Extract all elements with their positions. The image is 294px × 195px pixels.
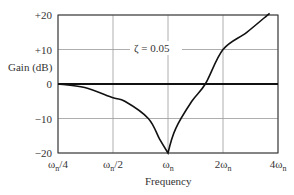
x-tick-label: ωn — [162, 158, 173, 173]
x-tick-label: 2ωn — [215, 158, 232, 173]
y-tick-label: −10 — [35, 113, 53, 125]
x-tick-label: 4ωn — [270, 158, 287, 173]
y-tick-label: +20 — [35, 9, 53, 21]
x-tick-label: ωn/2 — [103, 158, 123, 173]
chart: +20+100−10−20 ωn/4ωn/2ωn2ωn4ωn ζ = 0.05 … — [0, 0, 294, 195]
x-tick-label: ωn/4 — [48, 158, 68, 173]
y-axis-ticks: +20+100−10−20 — [35, 9, 53, 159]
damping-annotation: ζ = 0.05 — [134, 42, 170, 55]
y-tick-label: 0 — [47, 78, 53, 90]
y-tick-label: +10 — [35, 44, 53, 56]
x-axis-ticks: ωn/4ωn/2ωn2ωn4ωn — [48, 158, 286, 173]
x-axis-label: Frequency — [145, 175, 192, 187]
y-axis-label: Gain (dB) — [8, 61, 53, 74]
